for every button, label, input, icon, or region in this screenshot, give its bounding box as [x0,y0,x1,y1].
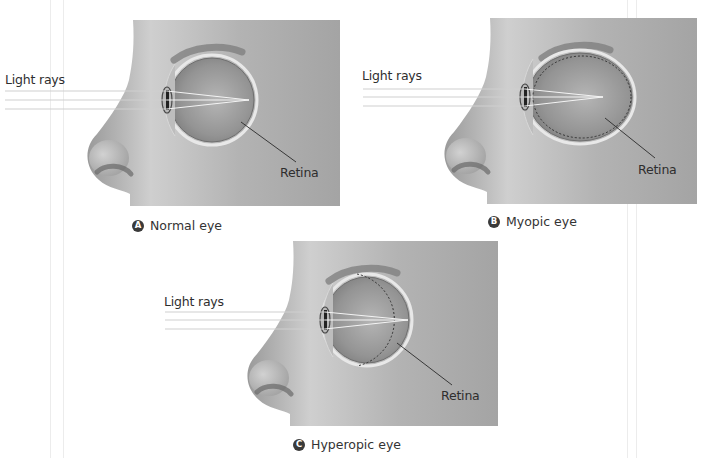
light-rays-label: Light rays [5,72,65,87]
caption-text: Hyperopic eye [311,437,401,452]
letter-a-badge-icon: A [132,220,144,232]
light-rays-label: Light rays [362,68,422,83]
caption-hyperopic-eye: C Hyperopic eye [293,437,401,452]
caption-text: Myopic eye [506,214,577,229]
caption-text: Normal eye [150,218,222,233]
retina-label: Retina [638,162,677,177]
caption-myopic-eye: B Myopic eye [488,214,577,229]
eye-diagram-illustration [0,0,701,458]
letter-b-badge-icon: B [488,216,500,228]
retina-label: Retina [441,388,480,403]
retina-label: Retina [280,165,319,180]
light-rays-label: Light rays [164,294,224,309]
caption-normal-eye: A Normal eye [132,218,222,233]
letter-c-badge-icon: C [293,439,305,451]
